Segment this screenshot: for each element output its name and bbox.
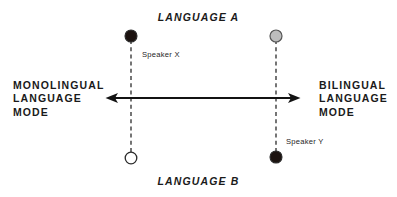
language-mode-diagram: LANGUAGE A LANGUAGE B MONOLINGUAL LANGUA…: [0, 0, 397, 197]
speaker-x-language-a-dot: [125, 30, 137, 42]
speaker-y-label: Speaker Y: [286, 137, 324, 147]
speaker-x-label: Speaker X: [142, 50, 180, 60]
language-a-axis-label: LANGUAGE A: [0, 11, 397, 24]
speaker-y-language-a-dot: [270, 30, 282, 42]
monolingual-language-mode-label: MONOLINGUAL LANGUAGE MODE: [13, 79, 104, 119]
speaker-y-language-b-dot: [270, 151, 282, 163]
language-b-axis-label: LANGUAGE B: [0, 175, 397, 188]
speaker-x-language-b-dot: [125, 152, 137, 164]
bilingual-language-mode-label: BILINGUAL LANGUAGE MODE: [319, 79, 388, 119]
